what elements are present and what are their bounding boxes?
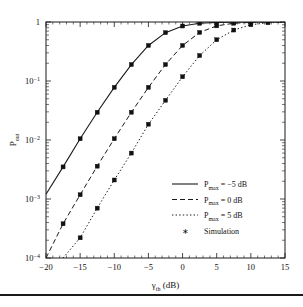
simulation-marker	[78, 193, 82, 197]
x-tick-label: 15	[281, 262, 290, 272]
simulation-marker	[146, 43, 150, 47]
x-tick-label: 10	[247, 262, 256, 272]
simulation-marker	[181, 75, 185, 79]
figure-container: −20−15−10−505101510−410−310−210−11γth (d…	[0, 0, 303, 307]
y-tick-label: 10−4	[25, 253, 40, 263]
simulation-marker	[112, 178, 116, 182]
y-tick-label: 10−3	[25, 194, 40, 204]
y-tick-label: 10−2	[25, 135, 40, 145]
y-axis-title: Pout	[8, 133, 20, 146]
x-tick-label: −20	[39, 262, 52, 272]
x-tick-label: −5	[144, 262, 153, 272]
legend-label-1: Pmax = 0 dB	[204, 196, 243, 207]
simulation-marker	[215, 38, 219, 42]
simulation-marker	[215, 24, 219, 28]
legend-label-2: Pmax = 5 dB	[204, 211, 243, 222]
legend-label-simulation: Simulation	[204, 227, 239, 236]
simulation-marker	[129, 151, 133, 155]
x-tick-label: −10	[108, 262, 121, 272]
simulation-marker	[198, 30, 202, 34]
simulation-marker	[181, 24, 185, 28]
simulation-marker	[61, 222, 65, 226]
simulation-marker	[61, 165, 65, 169]
simulation-marker	[112, 85, 116, 89]
simulation-marker	[198, 54, 202, 58]
curve-solid	[46, 22, 285, 194]
simulation-marker	[112, 137, 116, 141]
simulation-marker	[164, 31, 168, 35]
y-tick-label: 10−1	[25, 76, 40, 86]
simulation-marker	[129, 110, 133, 114]
simulation-marker	[95, 206, 99, 210]
outage-probability-chart: −20−15−10−505101510−410−310−210−11γth (d…	[0, 0, 303, 307]
simulation-marker	[129, 63, 133, 67]
x-tick-label: 5	[215, 262, 219, 272]
simulation-marker	[146, 122, 150, 126]
simulation-marker	[78, 236, 82, 240]
simulation-marker	[78, 137, 82, 141]
simulation-marker	[95, 164, 99, 168]
x-tick-label: 0	[180, 262, 184, 272]
x-tick-label: −15	[73, 262, 86, 272]
simulation-marker	[266, 21, 270, 25]
legend-label-0: Pmax = −5 dB	[204, 180, 247, 191]
x-axis-title: γth (dB)	[151, 280, 179, 292]
y-tick-label: 1	[36, 17, 40, 27]
legend-simulation-marker: ∗	[182, 227, 189, 236]
simulation-marker	[249, 23, 253, 27]
simulation-marker	[146, 85, 150, 89]
simulation-marker	[95, 110, 99, 114]
bottom-divider	[0, 294, 303, 296]
simulation-marker	[164, 98, 168, 102]
simulation-marker	[181, 43, 185, 47]
simulation-marker	[232, 28, 236, 32]
simulation-marker	[164, 63, 168, 67]
curve-dotted	[63, 22, 285, 258]
